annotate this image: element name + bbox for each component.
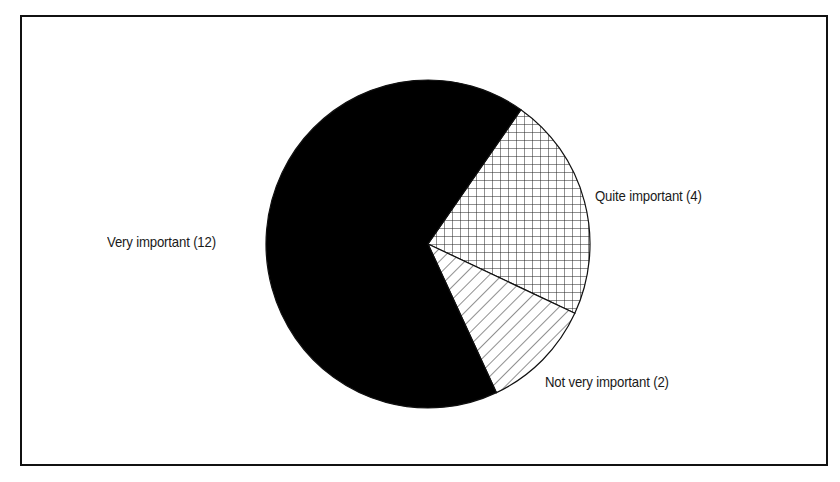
label-very-important: Very important (12)	[107, 233, 216, 250]
label-quite-important: Quite important (4)	[595, 187, 702, 204]
label-not-very-important: Not very important (2)	[545, 373, 669, 390]
pie-slices	[266, 80, 590, 408]
